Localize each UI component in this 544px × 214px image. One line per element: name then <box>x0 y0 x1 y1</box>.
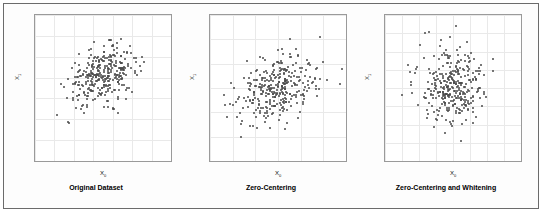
scatter-point <box>103 81 105 83</box>
scatter-point <box>439 45 441 47</box>
scatter-panel-zero-centering: X1 -30-20-100102030151050-5-10-15 X0 Zer… <box>185 8 357 206</box>
scatter-point <box>446 107 448 109</box>
scatter-point <box>81 84 83 86</box>
scatter-point <box>279 70 281 72</box>
scatter-point <box>431 105 433 107</box>
scatter-point <box>116 42 118 44</box>
scatter-point <box>311 82 313 84</box>
scatter-point <box>460 76 462 78</box>
scatter-point <box>301 67 303 69</box>
scatter-point <box>72 83 74 85</box>
scatter-point <box>274 96 276 98</box>
scatter-point <box>492 70 494 72</box>
scatter-point <box>266 89 268 91</box>
scatter-point <box>98 70 100 72</box>
scatter-point <box>425 97 427 99</box>
scatter-point <box>87 80 89 82</box>
scatter-point <box>115 65 117 67</box>
scatter-point <box>104 75 106 77</box>
scatter-point <box>123 51 125 53</box>
scatter-point <box>472 72 474 74</box>
scatter-point <box>130 52 132 54</box>
scatter-point <box>139 65 141 67</box>
scatter-point <box>448 79 450 81</box>
scatter-point <box>446 54 448 56</box>
gridline-horizontal <box>35 119 171 120</box>
scatter-point <box>411 92 413 94</box>
scatter-point <box>87 95 89 97</box>
scatter-point <box>240 136 242 138</box>
scatter-point <box>264 59 266 61</box>
scatter-point <box>453 81 455 83</box>
scatter-point <box>445 119 447 121</box>
scatter-point <box>279 114 281 116</box>
scatter-point <box>266 107 268 109</box>
scatter-point <box>80 108 82 110</box>
scatter-point <box>440 39 442 41</box>
scatter-point <box>276 103 278 105</box>
scatter-point <box>86 106 88 108</box>
scatter-point <box>302 103 304 105</box>
scatter-point <box>464 96 466 98</box>
scatter-point <box>290 98 292 100</box>
scatter-point <box>269 101 271 103</box>
scatter-point <box>101 59 103 61</box>
scatter-point <box>455 65 457 67</box>
scatter-panel-original: X1 -30-20-10010203040151050-5-10-15-20 X… <box>10 8 182 206</box>
scatter-point <box>459 46 461 48</box>
scatter-point <box>296 84 298 86</box>
scatter-point <box>112 79 114 81</box>
figure-frame: X1 -30-20-10010203040151050-5-10-15-20 X… <box>3 3 539 209</box>
scatter-point <box>455 25 457 27</box>
scatter-point <box>294 70 296 72</box>
scatter-point <box>492 58 494 60</box>
scatter-point <box>442 75 444 77</box>
scatter-point <box>88 64 90 66</box>
scatter-point <box>449 66 451 68</box>
scatter-point <box>236 116 238 118</box>
scatter-point <box>307 80 309 82</box>
scatter-point <box>472 96 474 98</box>
scatter-point <box>319 36 321 38</box>
scatter-point <box>103 106 105 108</box>
scatter-point <box>78 53 80 55</box>
scatter-point <box>90 48 92 50</box>
scatter-point <box>438 58 440 60</box>
scatter-point <box>427 113 429 115</box>
scatter-point <box>410 84 412 86</box>
scatter-point <box>113 108 115 110</box>
scatter-point <box>135 61 137 63</box>
scatter-point <box>264 121 266 123</box>
scatter-point <box>444 54 446 56</box>
scatter-point <box>303 89 305 91</box>
scatter-point <box>256 127 258 129</box>
gridline-horizontal <box>210 161 346 162</box>
scatter-point <box>442 77 444 79</box>
scatter-point <box>255 70 257 72</box>
scatter-point <box>289 93 291 95</box>
scatter-point <box>123 66 125 68</box>
scatter-point <box>441 103 443 105</box>
scatter-point <box>445 84 447 86</box>
scatter-point <box>263 85 265 87</box>
scatter-point <box>74 62 76 64</box>
scatter-point <box>444 132 446 134</box>
scatter-point <box>442 91 444 93</box>
scatter-point <box>442 65 444 67</box>
scatter-point <box>460 59 462 61</box>
scatter-point <box>78 81 80 83</box>
scatter-point <box>116 70 118 72</box>
scatter-point <box>262 90 264 92</box>
scatter-point <box>465 83 467 85</box>
scatter-point <box>290 56 292 58</box>
scatter-point <box>85 71 87 73</box>
gridline-horizontal <box>35 161 171 162</box>
scatter-point <box>341 68 343 70</box>
scatter-point <box>415 68 417 70</box>
scatter-point <box>283 72 285 74</box>
scatter-point <box>299 67 301 69</box>
scatter-point <box>265 95 267 97</box>
scatter-point <box>99 64 101 66</box>
scatter-point <box>266 72 268 74</box>
scatter-point <box>278 95 280 97</box>
